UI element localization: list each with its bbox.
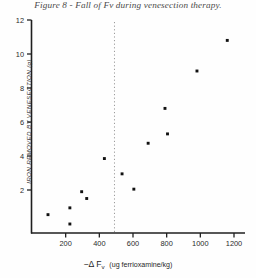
data-points	[47, 39, 229, 226]
x-tick-label: 200	[52, 239, 80, 248]
x-axis-title: −Δ Fv (ug ferrioxamine/kg)	[0, 259, 256, 270]
x-tick-label: 600	[119, 239, 147, 248]
data-point-marker	[68, 206, 71, 209]
x-tick-label: 1000	[186, 239, 214, 248]
data-point-marker	[68, 223, 71, 226]
figure-container: Figure 8 - Fall of Fv during venesection…	[0, 0, 256, 278]
data-point-marker	[196, 70, 199, 73]
x-axis-title-prefix: −Δ F	[84, 259, 102, 269]
x-tick-label: 1200	[220, 239, 248, 248]
data-point-marker	[132, 188, 135, 191]
data-point-marker	[80, 190, 83, 193]
x-axis-title-subscript: v	[101, 263, 104, 270]
x-tick-label: 400	[85, 239, 113, 248]
scatter-plot	[0, 0, 256, 278]
data-point-marker	[85, 197, 88, 200]
data-point-marker	[226, 39, 229, 42]
y-tick-label: 4	[4, 152, 24, 161]
y-tick-label: 8	[4, 84, 24, 93]
x-axis-title-units: (ug ferrioxamine/kg)	[109, 261, 172, 269]
data-point-marker	[47, 213, 50, 216]
y-tick-label: 6	[4, 118, 24, 127]
data-point-marker	[166, 132, 169, 135]
plot-svg	[0, 0, 256, 278]
data-point-marker	[121, 172, 124, 175]
data-point-marker	[164, 107, 167, 110]
y-tick-label: 10	[4, 50, 24, 59]
data-point-marker	[147, 142, 150, 145]
y-tick-label: 2	[4, 186, 24, 195]
data-point-marker	[103, 157, 106, 160]
x-tick-label: 800	[153, 239, 181, 248]
axes	[31, 20, 245, 234]
y-tick-label: 12	[4, 16, 24, 25]
